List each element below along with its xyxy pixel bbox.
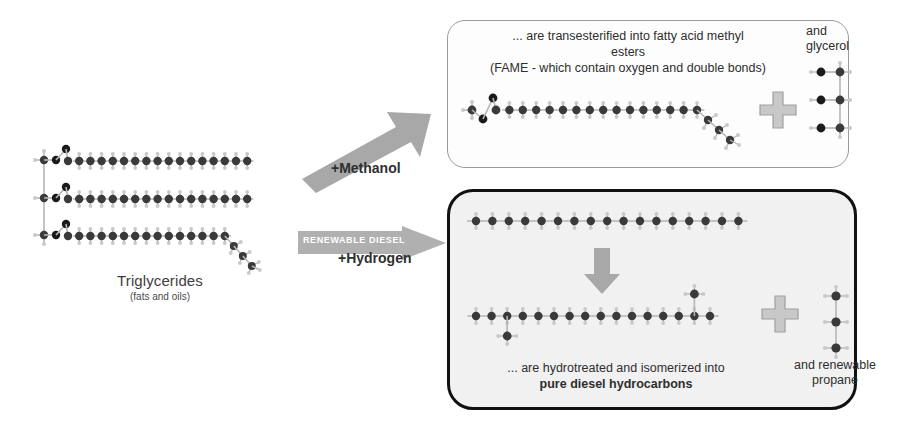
propane-molecule	[802, 282, 872, 362]
plus-sign-icon-bottom	[762, 296, 798, 332]
straight-chain-alkane-molecule	[462, 198, 762, 244]
glycerol-label-line1: and	[806, 24, 886, 39]
fame-text-line3: (FAME - which contain oxygen and double …	[463, 60, 793, 76]
glycerol-label-line2: glycerol	[806, 39, 886, 54]
fame-text-line2: esters	[463, 44, 793, 60]
diagram-canvas: Triglycerides (fats and oils) FAME +Meth…	[0, 0, 897, 430]
renewable-diesel-arrow-label: RENEWABLE DIESEL	[303, 235, 405, 245]
branched-diesel-hydrocarbon-molecule	[462, 286, 762, 352]
plus-sign-icon-top	[760, 92, 796, 128]
hydrogen-reagent-label: +Hydrogen	[338, 250, 412, 266]
triglycerides-subtitle: (fats and oils)	[60, 290, 260, 303]
glycerol-molecule	[800, 58, 880, 154]
methanol-reagent-label: +Methanol	[331, 160, 401, 176]
propane-label: and renewable propane	[780, 358, 890, 388]
fame-text-line1: ... are transesterified into fatty acid …	[463, 28, 793, 44]
glycerol-label: and glycerol	[806, 24, 886, 54]
propane-label-line1: and renewable	[780, 358, 890, 373]
fame-description-text: ... are transesterified into fatty acid …	[463, 28, 793, 76]
diesel-description-text: ... are hydrotreated and isomerized into…	[456, 360, 776, 392]
triglyceride-molecule	[28, 138, 308, 273]
triglycerides-title: Triglycerides	[60, 272, 260, 290]
triglycerides-label: Triglycerides (fats and oils)	[60, 272, 260, 303]
diesel-text-line1: ... are hydrotreated and isomerized into	[456, 360, 776, 376]
propane-label-line2: propane	[780, 373, 890, 388]
diesel-text-line2: pure diesel hydrocarbons	[456, 376, 776, 392]
fatty-acid-methyl-ester-molecule	[460, 82, 760, 152]
